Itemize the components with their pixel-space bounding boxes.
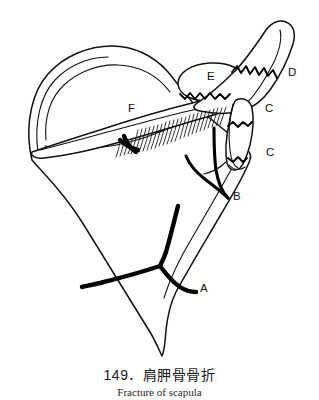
label-F: F (128, 102, 135, 114)
figure-caption: 149．肩胛骨骨折 Fracture of scapula (0, 366, 319, 399)
label-E: E (207, 70, 215, 82)
label-B: B (233, 190, 241, 202)
label-D: D (288, 66, 296, 78)
label-C-lower: C (266, 146, 274, 158)
scapula-illustration: A B C C D E F (0, 0, 319, 365)
caption-english: Fracture of scapula (0, 385, 319, 399)
figure-container: A B C C D E F 149．肩胛骨骨折 Fracture of scap… (0, 0, 319, 400)
caption-chinese: 149．肩胛骨骨折 (0, 366, 319, 384)
label-A: A (200, 282, 208, 294)
label-C-upper: C (265, 102, 273, 114)
